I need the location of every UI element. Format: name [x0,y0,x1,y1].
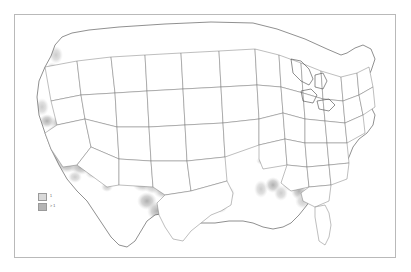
legend-swatch-class-1 [38,193,47,201]
legend-item: 1 [38,192,98,201]
legend-item: > 1 [38,202,98,211]
figure-frame [14,14,396,258]
legend-label-class-1: 1 [50,195,52,199]
us-map [15,15,397,259]
legend-swatch-class-2 [38,203,47,211]
legend-label-class-2: > 1 [50,205,55,209]
legend: 1 > 1 [38,192,98,216]
us-map-svg [15,15,397,259]
map-figure: 1 > 1 [0,0,411,272]
